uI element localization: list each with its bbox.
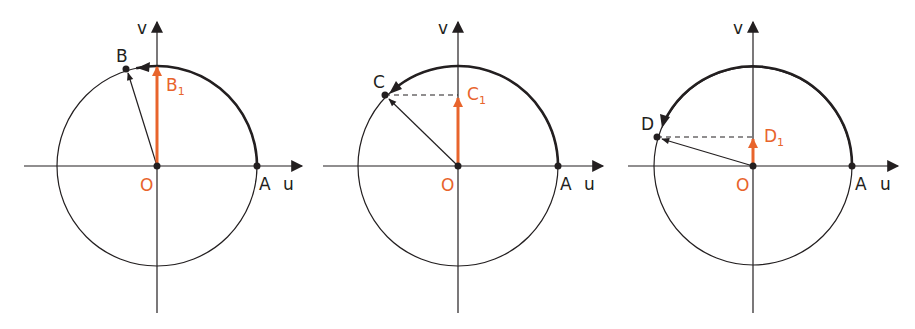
- u-axis-label: u: [283, 174, 294, 194]
- point-o: [455, 163, 462, 170]
- rotation-arc: [664, 66, 852, 166]
- point-a: [555, 163, 562, 170]
- projection-b1-label: B1: [166, 75, 185, 98]
- figure-canvas: v u O A B B1 v u O A C C1: [0, 0, 915, 329]
- v-axis-label: v: [137, 18, 147, 38]
- point-a: [254, 163, 261, 170]
- point-d-label: D: [641, 114, 654, 134]
- origin-label: O: [441, 175, 454, 195]
- point-a: [849, 163, 856, 170]
- point-a-label: A: [560, 174, 572, 194]
- v-axis-label: v: [733, 18, 743, 38]
- point-c: [382, 92, 389, 99]
- v-axis-label: v: [438, 18, 448, 38]
- origin-label: O: [140, 175, 153, 195]
- point-d: [654, 134, 661, 141]
- panel-3: v u O A D D1: [628, 18, 898, 313]
- radius-vector-oc: [389, 99, 458, 166]
- panel-2: v u O A C C1: [323, 18, 603, 313]
- u-axis-label: u: [880, 174, 891, 194]
- radius-vector-ob: [128, 73, 157, 166]
- point-a-label: A: [259, 174, 271, 194]
- projection-c1-label: C1: [467, 84, 486, 107]
- point-o: [750, 163, 757, 170]
- point-b: [123, 66, 130, 73]
- point-c-label: C: [373, 72, 385, 92]
- projection-d1-label: D1: [764, 126, 784, 149]
- panel-1: v u O A B B1: [24, 18, 302, 313]
- radius-vector-od: [662, 139, 753, 166]
- u-axis-label: u: [584, 174, 595, 194]
- rotation-arc: [136, 66, 257, 166]
- point-a-label: A: [855, 174, 867, 194]
- point-b-label: B: [116, 46, 128, 66]
- rotation-arc: [393, 66, 558, 166]
- point-o: [154, 163, 161, 170]
- origin-label: O: [736, 175, 749, 195]
